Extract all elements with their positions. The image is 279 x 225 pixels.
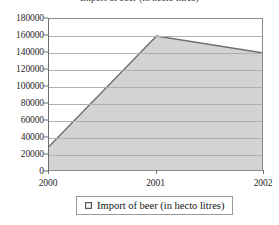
y-axis-tick-label: 140000 [0, 48, 44, 58]
x-axis-tick-label: 2001 [146, 178, 165, 189]
y-axis-tick-label: 100000 [0, 82, 44, 92]
x-axis-tick-mark [156, 170, 157, 174]
x-axis-tick-label: 2000 [39, 178, 58, 189]
x-axis-tick-mark [48, 170, 49, 174]
gridline [49, 70, 262, 71]
gridline [49, 87, 262, 88]
y-axis-tick-label: 40000 [0, 133, 44, 143]
y-axis-tick-label: 80000 [0, 99, 44, 109]
plot-area [48, 18, 263, 171]
gridline [49, 155, 262, 156]
plot-region: 1800001600001400001200001000008000060000… [0, 14, 279, 174]
gridline [49, 53, 262, 54]
y-axis-tick-labels: 1800001600001400001200001000008000060000… [0, 18, 44, 171]
gridline [49, 138, 262, 139]
y-axis-tick-label: 180000 [0, 14, 44, 24]
legend-label: Import of beer (in hecto litres) [97, 200, 224, 212]
legend-swatch-icon [85, 202, 92, 209]
x-axis-tick-label: 2002 [254, 178, 273, 189]
y-axis-tick-label: 60000 [0, 116, 44, 126]
x-axis-tick-mark [263, 170, 264, 174]
chart-figure: Import of beer (in hecto litres) 1800001… [0, 0, 279, 225]
y-axis-tick-label: 20000 [0, 150, 44, 160]
gridline [49, 121, 262, 122]
chart-legend: Import of beer (in hecto litres) [76, 196, 233, 215]
x-axis-tick-labels: 200020012002 [0, 174, 279, 190]
cropped-chart-title: Import of beer (in hecto litres) [0, 0, 279, 5]
area-series-svg [49, 19, 263, 171]
y-axis-tick-label: 120000 [0, 65, 44, 75]
y-axis-tick-label: 160000 [0, 31, 44, 41]
gridline [49, 104, 262, 105]
gridline [49, 36, 262, 37]
